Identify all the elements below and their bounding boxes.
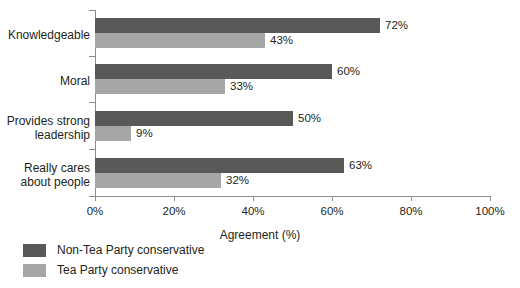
category-label-line: Provides strong bbox=[0, 114, 90, 128]
y-axis-tick bbox=[89, 56, 95, 57]
bar-value-series0-cat2: 50% bbox=[298, 111, 321, 126]
y-axis-tick bbox=[89, 149, 95, 150]
x-axis-tick-label: 60% bbox=[320, 205, 343, 217]
category-label-knowledgeable: Knowledgeable bbox=[0, 28, 90, 42]
bar-series0-cat1 bbox=[95, 64, 332, 79]
category-label-line: Really cares bbox=[0, 161, 90, 175]
bar-value-series1-cat0: 43% bbox=[270, 33, 293, 48]
bar-value-series1-cat1: 33% bbox=[230, 79, 253, 94]
x-axis-line bbox=[95, 196, 491, 197]
x-axis-tick-label: 40% bbox=[241, 205, 264, 217]
bar-value-series0-cat1: 60% bbox=[337, 64, 360, 79]
category-label-line: about people bbox=[0, 175, 90, 189]
x-axis-tick bbox=[253, 196, 254, 201]
legend-item-tea-party-conservative: Tea Party conservative bbox=[23, 260, 204, 280]
bar-value-series0-cat3: 63% bbox=[349, 158, 372, 173]
plot-area: 0% 20% 40% 60% 80% 100% 72% 43% 60% 33% … bbox=[95, 10, 491, 196]
bar-value-series0-cat0: 72% bbox=[385, 18, 408, 33]
bar-series1-cat0 bbox=[95, 33, 265, 48]
bar-series0-cat0 bbox=[95, 18, 380, 33]
bar-value-series1-cat3: 32% bbox=[226, 173, 249, 188]
category-label-provides-strong-leadership: Provides strong leadership bbox=[0, 114, 90, 142]
x-axis-tick bbox=[174, 196, 175, 201]
bar-series0-cat3 bbox=[95, 158, 344, 173]
bar-series1-cat2 bbox=[95, 126, 131, 141]
x-axis-tick-label: 80% bbox=[399, 205, 422, 217]
x-axis-tick bbox=[490, 196, 491, 201]
category-label-really-cares-about-people: Really cares about people bbox=[0, 161, 90, 189]
legend-label: Tea Party conservative bbox=[57, 263, 178, 277]
legend-swatch-icon bbox=[23, 244, 46, 257]
bar-chart: 0% 20% 40% 60% 80% 100% 72% 43% 60% 33% … bbox=[0, 0, 520, 288]
x-axis-tick bbox=[332, 196, 333, 201]
y-axis-tick bbox=[89, 102, 95, 103]
y-axis-tick bbox=[89, 10, 95, 11]
chart-legend: Non-Tea Party conservative Tea Party con… bbox=[23, 240, 204, 280]
x-axis-tick-label: 0% bbox=[87, 205, 104, 217]
x-axis-tick-label: 100% bbox=[475, 205, 504, 217]
category-label-line: Knowledgeable bbox=[0, 28, 90, 42]
legend-item-non-tea-party-conservative: Non-Tea Party conservative bbox=[23, 240, 204, 260]
bar-series1-cat1 bbox=[95, 79, 225, 94]
x-axis-tick bbox=[95, 196, 96, 201]
x-axis-tick bbox=[411, 196, 412, 201]
bar-series1-cat3 bbox=[95, 173, 221, 188]
bar-value-series1-cat2: 9% bbox=[136, 126, 153, 141]
legend-label: Non-Tea Party conservative bbox=[57, 243, 204, 257]
category-label-line: Moral bbox=[0, 74, 90, 88]
category-label-line: leadership bbox=[0, 128, 90, 142]
x-axis-tick-label: 20% bbox=[162, 205, 185, 217]
category-label-moral: Moral bbox=[0, 74, 90, 88]
bar-series0-cat2 bbox=[95, 111, 293, 126]
legend-swatch-icon bbox=[23, 264, 46, 277]
